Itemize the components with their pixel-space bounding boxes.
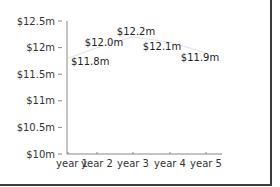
y-axis: $10m$10.5m$11m$11.5m$12m$12.5m: [17, 16, 67, 160]
x-axis: year 1year 2year 3year 4year 5: [56, 152, 222, 169]
data-point-label: $11.8m: [71, 56, 109, 67]
x-tick-label: year 2: [81, 158, 113, 169]
y-tick-label: $12m: [26, 42, 55, 53]
data-point-label: $12.2m: [117, 26, 155, 37]
y-tick-label: $11.5m: [17, 69, 55, 80]
data-point-label: $12.1m: [143, 41, 181, 52]
data-point-label: $11.9m: [181, 52, 219, 63]
y-tick-label: $12.5m: [17, 16, 55, 27]
y-tick-label: $11m: [26, 95, 55, 106]
x-tick-label: year 3: [117, 158, 149, 169]
x-tick-label: year 5: [190, 158, 222, 169]
x-tick-label: year 4: [154, 158, 186, 169]
line-chart: $10m$10.5m$11m$11.5m$12m$12.5m year 1yea…: [0, 0, 280, 187]
data-point-label: $12.0m: [85, 37, 123, 48]
y-tick-label: $10.5m: [17, 122, 55, 133]
y-tick-label: $10m: [26, 149, 55, 160]
data-labels: $11.8m$12.0m$12.2m$12.1m$11.9m: [71, 26, 219, 67]
